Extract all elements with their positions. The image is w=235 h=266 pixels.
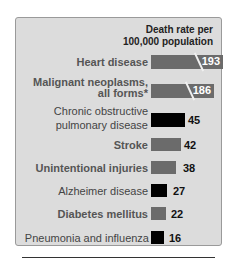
bar-value: 38 (183, 162, 195, 174)
bar-label-line-1: Chronic obstructive (54, 105, 148, 117)
header-line-1: Death rate per (123, 24, 213, 36)
bottom-divider (22, 257, 215, 258)
bar-value: 186 (193, 84, 211, 96)
bar-label: Alzheimer disease (58, 185, 148, 197)
bar-value: 27 (173, 185, 185, 197)
chart-panel: Death rate per 100,000 population Heart … (15, 17, 222, 246)
bar-label: Heart disease (76, 56, 148, 68)
bar-value: 42 (184, 139, 196, 151)
chart-header: Death rate per 100,000 population (123, 24, 213, 48)
bar-value: 45 (188, 114, 200, 126)
bar (151, 161, 176, 174)
bar-label-line-2: all forms* (98, 87, 148, 99)
bar (151, 184, 167, 197)
bar-label-line-2: pulmonary disease (56, 119, 148, 131)
header-line-2: 100,000 population (123, 36, 213, 48)
bar-label: Unintentional injuries (36, 162, 148, 174)
bar-value: 22 (171, 208, 183, 220)
bar-label: Diabetes mellitus (58, 208, 148, 220)
bar (151, 138, 181, 151)
bar (151, 231, 164, 244)
bar (151, 207, 166, 220)
bar (151, 113, 185, 127)
bar-value: 193 (202, 55, 220, 67)
bar: 193 (151, 55, 223, 69)
bar-label: Pneumonia and influenza (25, 232, 149, 244)
bar-value: 16 (169, 232, 181, 244)
bar: 186 (151, 84, 214, 98)
bar-label: Stroke (114, 139, 148, 151)
